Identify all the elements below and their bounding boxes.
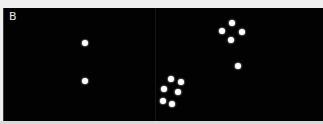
fluorescent-dot xyxy=(175,89,181,95)
fluorescent-dot xyxy=(168,76,174,82)
fluorescent-dot xyxy=(235,63,241,69)
fluorescent-dot xyxy=(82,78,88,84)
fluorescent-dot xyxy=(228,37,234,43)
fluorescent-dot xyxy=(229,20,235,26)
fluorescent-dot xyxy=(239,29,245,35)
micrograph-frame xyxy=(3,8,323,121)
fluorescent-dot xyxy=(82,40,88,46)
fluorescent-dot xyxy=(161,86,167,92)
panel-label: B xyxy=(9,11,17,22)
bottom-margin xyxy=(0,121,323,124)
figure-panel-b: B xyxy=(0,0,323,124)
subpanel-divider xyxy=(155,8,156,121)
fluorescent-dot xyxy=(219,28,225,34)
fluorescent-dot xyxy=(169,101,175,107)
fluorescent-dot xyxy=(178,79,184,85)
fluorescent-dot xyxy=(160,98,166,104)
